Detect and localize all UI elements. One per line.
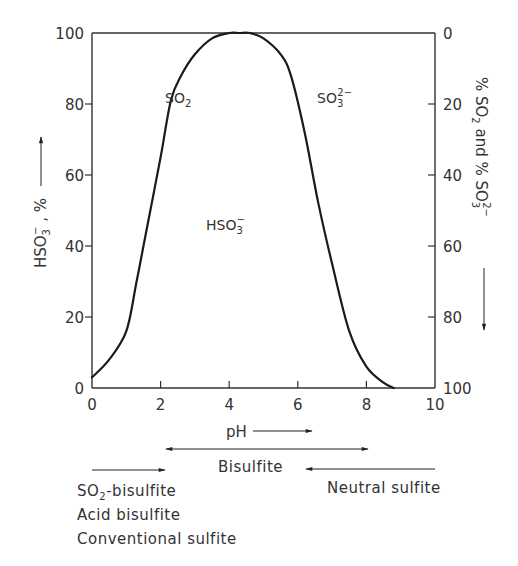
y-left-tick-label: 0 [74, 380, 84, 398]
y-axis-right-title: % SO2 and % SO32− [470, 77, 492, 330]
y-left-tick-label: 60 [65, 167, 84, 185]
x-tick-label: 6 [293, 396, 303, 414]
y-right-tick-label: 0 [443, 25, 453, 43]
annotation-hso3: HSO3− [206, 214, 245, 236]
chart-canvas: 0246810020406080100100806040200 SO2 SO32… [0, 0, 518, 566]
y-left-tick-label: 20 [65, 309, 84, 327]
y-right-tick-label: 40 [443, 167, 462, 185]
x-tick-label: 10 [425, 396, 444, 414]
axis-tick-labels: 0246810020406080100100806040200 [55, 25, 471, 414]
process-ranges: Bisulfite Neutral sulfite SO2-bisulfite … [77, 449, 441, 548]
axis-ticks [85, 104, 435, 388]
y-left-tick-label: 40 [65, 238, 84, 256]
annotation-so3: SO32− [317, 87, 352, 109]
x-tick-label: 2 [156, 396, 166, 414]
x-tick-label: 4 [224, 396, 234, 414]
acid-bisulfite-label: Acid bisulfite [77, 506, 180, 524]
x-tick-label: 8 [362, 396, 372, 414]
y-right-tick-label: 60 [443, 238, 462, 256]
svg-text:pH: pH [226, 423, 247, 441]
y-right-tick-label: 100 [443, 380, 472, 398]
y-right-tick-label: 80 [443, 309, 462, 327]
x-axis-title: pH [226, 423, 312, 441]
y-axis-left-title: HSO3− , % [30, 137, 52, 268]
neutral-sulfite-label: Neutral sulfite [327, 479, 441, 497]
hso3-curve [92, 33, 394, 388]
so2-bisulfite-label: SO2-bisulfite [77, 482, 176, 502]
conventional-sulfite-label: Conventional sulfite [77, 530, 237, 548]
svg-text:% SO2 and % SO32−: % SO2 and % SO32− [470, 77, 492, 217]
plot-frame [92, 33, 435, 388]
svg-text:HSO3− , %: HSO3− , % [30, 198, 52, 268]
y-left-tick-label: 80 [65, 96, 84, 114]
y-left-tick-label: 100 [55, 25, 84, 43]
x-tick-label: 0 [87, 396, 97, 414]
bisulfite-label: Bisulfite [218, 458, 283, 476]
y-right-tick-label: 20 [443, 96, 462, 114]
